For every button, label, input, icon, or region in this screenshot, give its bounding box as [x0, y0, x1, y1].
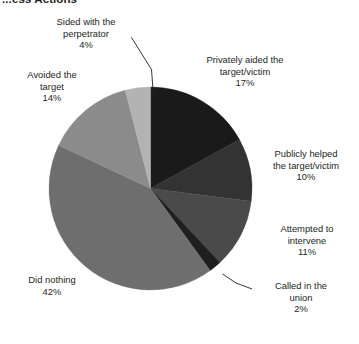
slice-percent: 17%: [187, 77, 303, 89]
pie-chart-figure: ...ess Actions Sided with the perpetrato…: [0, 0, 359, 344]
slice-label-line1: Avoided the: [6, 69, 98, 81]
slice-label-publicly-helped-the-target-victim: Publicly helped the target/victim 10%: [253, 148, 359, 183]
slice-label-line1: Attempted to: [258, 223, 356, 235]
slice-label-did-nothing: Did nothing 42%: [4, 274, 100, 297]
slice-percent: 2%: [252, 303, 350, 315]
slice-label-line1: Called in the: [252, 280, 350, 292]
slice-label-line2: perpetrator: [34, 28, 138, 40]
slice-label-privately-aided-the-target-victim: Privately aided the target/victim 17%: [187, 54, 303, 89]
slice-label-attempted-to-intervene: Attempted to intervene 11%: [258, 223, 356, 258]
slice-percent: 10%: [253, 171, 359, 183]
slice-label-line2: target/victim: [187, 66, 303, 78]
slice-label-line2: intervene: [258, 235, 356, 247]
slice-label-line2: the target/victim: [253, 160, 359, 172]
slice-label-line2: target: [6, 81, 98, 93]
slice-label-avoided-the-target: Avoided the target 14%: [6, 69, 98, 104]
slice-label-line1: Privately aided the: [187, 54, 303, 66]
slice-label-called-in-the-union: Called in the union 2%: [252, 280, 350, 315]
slice-label-line2: union: [252, 292, 350, 304]
leader-line-called-in-union: [223, 274, 253, 289]
pie-slices-group: [49, 87, 252, 290]
slice-label-line1: Sided with the: [34, 16, 138, 28]
slice-label-sided-with-the-perpetrator: Sided with the perpetrator 4%: [34, 16, 138, 51]
slice-label-line1: Publicly helped: [253, 148, 359, 160]
slice-percent: 42%: [4, 286, 100, 298]
slice-percent: 14%: [6, 92, 98, 104]
slice-percent: 11%: [258, 246, 356, 258]
slice-label-line1: Did nothing: [4, 274, 100, 286]
slice-percent: 4%: [34, 39, 138, 51]
